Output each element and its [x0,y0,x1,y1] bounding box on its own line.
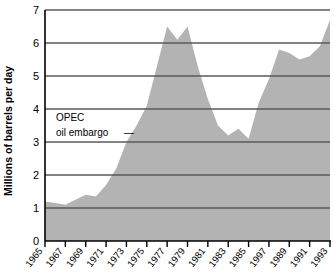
annotation-leader-dash: — [124,127,134,138]
y-tick-label-4: 4 [33,103,39,115]
y-tick-label-1: 1 [33,202,39,214]
y-tick-label-3: 3 [33,136,39,148]
y-tick-label-0: 0 [33,235,39,247]
y-tick-label-5: 5 [33,70,39,82]
y-tick-label-2: 2 [33,169,39,181]
annotation-line-2: oil embargo [56,127,109,138]
y-axis-title: Millions of barrels per day [2,66,14,196]
area-chart: Millions of barrels per day 7 6 5 4 3 2 … [0,0,334,277]
annotation-line-1: OPEC [56,112,84,123]
y-tick-label-7: 7 [33,4,39,16]
y-tick-label-6: 6 [33,37,39,49]
chart-container: Millions of barrels per day 7 6 5 4 3 2 … [0,0,334,277]
